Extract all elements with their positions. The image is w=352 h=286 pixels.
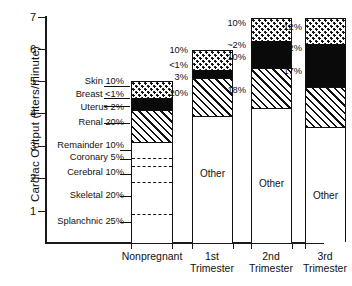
segment-renal-first-trimester: [193, 78, 232, 116]
category-label-third-trimester-line2: Trimester: [288, 263, 352, 275]
y-tick-4: [38, 113, 45, 114]
divider-skeletal-nonpregnant: [132, 214, 172, 215]
pct-renal-second-trimester: 18%: [200, 85, 246, 95]
pct-breast-second-trimester: ~2%: [200, 40, 246, 50]
y-axis-line: [45, 16, 47, 243]
pct-breast-third-trimester: ~2%: [258, 43, 302, 53]
leader-skeletal: [120, 196, 131, 197]
divider-coronary-nonpregnant: [132, 166, 172, 167]
pct-skin-first-trimester: 10%: [148, 45, 188, 55]
label-remainder: Remainder 10%: [14, 140, 124, 150]
y-tick-label-1: 1: [24, 206, 36, 216]
leader-renal: [104, 123, 130, 124]
x-tick-2b: [292, 243, 293, 249]
pct-skin-second-trimester: 10%: [200, 18, 246, 28]
category-label-third-trimester: 3rd Trimester: [288, 251, 352, 274]
bar-third-trimester: [305, 18, 346, 242]
x-tick-2a: [251, 243, 252, 249]
bar-nonpregnant: [131, 81, 173, 242]
segment-other-third-trimester: [306, 127, 345, 244]
label-renal: Renal 20%: [34, 117, 124, 127]
segment-renal-nonpregnant: [132, 110, 172, 142]
label-coronary: Coronary 5%: [22, 152, 124, 162]
leader-splanchnic: [120, 222, 131, 223]
divider-cerebral-nonpregnant: [132, 182, 172, 183]
leader-uterus: [104, 106, 130, 107]
segment-skin-third-trimester: [306, 19, 345, 44]
pct-breast-first-trimester: <1%: [148, 60, 188, 70]
bar-first-trimester: [192, 50, 233, 242]
y-tick-label-7: 7: [24, 12, 36, 22]
y-tick-6: [38, 49, 45, 50]
segment-renal-third-trimester: [306, 87, 345, 127]
leader-cerebral: [120, 174, 131, 175]
pct-skin-third-trimester: 12%: [258, 22, 302, 32]
segment-uterus-nonpregnant: [132, 100, 172, 110]
x-tick-0a: [131, 243, 132, 249]
label-other-second-trimester: Other: [251, 178, 292, 189]
y-tick-1: [38, 211, 45, 212]
leader-remainder: [120, 150, 131, 151]
segment-other-second-trimester: [252, 108, 291, 244]
segment-uterus-third-trimester: [306, 49, 345, 87]
y-tick-7: [38, 17, 45, 18]
pct-uterus-first-trimester: 3%: [148, 72, 188, 82]
x-tick-1a: [192, 243, 193, 249]
label-splanchnic: Splanchnic 25%: [20, 216, 124, 226]
pct-renal-first-trimester: 20%: [148, 88, 188, 98]
label-other-first-trimester: Other: [192, 168, 233, 179]
segment-other-first-trimester: [193, 116, 232, 243]
label-skin: Skin 10%: [36, 76, 124, 86]
y-tick-2: [38, 178, 45, 179]
pct-uterus-second-trimester: 10%: [200, 52, 246, 62]
leader-coronary: [120, 159, 131, 160]
pct-uterus-third-trimester: 17%: [258, 66, 302, 76]
label-skeletal: Skeletal 20%: [28, 190, 124, 200]
leader-skin: [104, 86, 130, 87]
label-cerebral: Cerebral 10%: [28, 167, 124, 177]
x-tick-1b: [233, 243, 234, 249]
divider-remainder-nonpregnant: [132, 158, 172, 159]
y-tick-label-6: 6: [24, 44, 36, 54]
x-tick-3a: [305, 243, 306, 249]
x-tick-0b: [172, 243, 173, 249]
leader-breast: [104, 98, 130, 99]
label-other-third-trimester: Other: [305, 190, 346, 201]
category-label-third-trimester-line1: 3rd: [288, 251, 352, 263]
y-tick-label-5: 5: [24, 76, 36, 86]
